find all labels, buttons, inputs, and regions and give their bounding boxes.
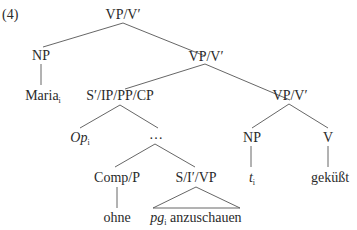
node-comp-p: Comp/P xyxy=(94,170,140,186)
edge-vp3-np xyxy=(252,104,289,128)
edge-root-np xyxy=(43,23,123,47)
leaf-maria: Mariai xyxy=(25,88,61,109)
triangle-svp xyxy=(153,187,240,208)
example-number: (4) xyxy=(2,7,18,23)
edge-dots-svp xyxy=(155,144,195,167)
node-vp3: VP/V′ xyxy=(273,88,308,104)
node-vp2: VP/V′ xyxy=(189,49,224,65)
node-s-ip-pp-cp: S′/IP/PP/CP xyxy=(86,88,154,104)
node-op: Opi xyxy=(70,130,89,151)
leaf-pg-anzuschauen: pgi anzuschauen xyxy=(150,210,241,230)
edge-scp-op xyxy=(80,105,120,128)
leaf-gekusst: geküßt xyxy=(311,170,349,186)
edge-vp3-v xyxy=(289,104,328,128)
node-s-i-vp: S/I′/VP xyxy=(175,170,216,186)
leaf-ohne: ohne xyxy=(103,210,130,226)
node-ellipsis: … xyxy=(149,127,163,143)
node-root-vp: VP/V′ xyxy=(106,7,141,23)
edge-dots-comp xyxy=(115,144,155,167)
node-np2: NP xyxy=(243,130,261,146)
node-np: NP xyxy=(32,48,50,64)
leaf-trace: ti xyxy=(249,170,255,191)
node-v: V xyxy=(323,130,333,146)
tree-edges xyxy=(0,0,357,230)
edge-vp2-scp xyxy=(125,64,205,89)
edge-scp-dots xyxy=(120,105,158,128)
